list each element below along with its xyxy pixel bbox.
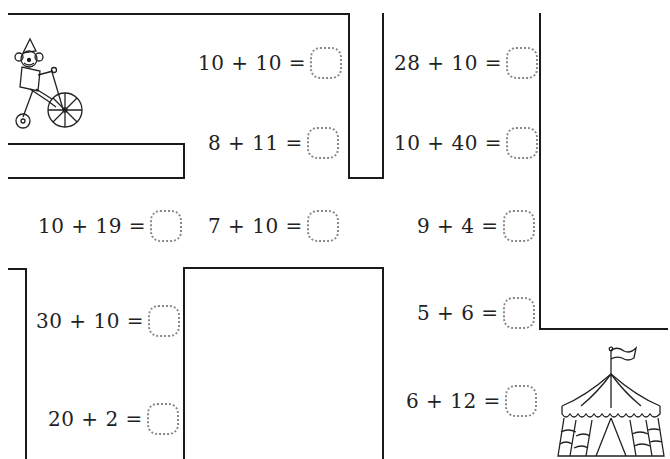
maze-wall-small-box-bottom	[8, 177, 185, 179]
maze-wall-center-box-left	[183, 267, 185, 459]
equation-3: 28 + 10 =	[394, 47, 538, 79]
equation-11: 20 + 2 =	[48, 403, 179, 435]
answer-box[interactable]	[147, 403, 179, 435]
equation-8: 30 + 10 =	[36, 305, 180, 337]
equation-expression: 9 + 4 =	[417, 214, 499, 238]
answer-box[interactable]	[150, 210, 182, 242]
answer-box[interactable]	[148, 305, 180, 337]
answer-box[interactable]	[307, 210, 339, 242]
equation-expression: 8 + 11 =	[208, 131, 303, 155]
answer-box[interactable]	[505, 385, 537, 417]
answer-box[interactable]	[506, 47, 538, 79]
maze-wall-right-lane-bottom	[539, 328, 668, 330]
maze-wall-right-lane	[539, 13, 541, 330]
equation-6: 7 + 10 =	[208, 210, 339, 242]
circus-tent-icon	[556, 344, 666, 459]
maze-worksheet: 10 + 10 = 8 + 11 = 28 + 10 = 10 + 40 = 1…	[0, 0, 670, 459]
maze-wall-notch-right	[382, 13, 384, 179]
equation-9: 5 + 6 =	[417, 297, 535, 329]
answer-box[interactable]	[503, 297, 535, 329]
equation-7: 9 + 4 =	[417, 210, 535, 242]
equation-4: 10 + 40 =	[394, 127, 538, 159]
maze-wall-small-box-right	[183, 143, 185, 179]
equation-expression: 10 + 40 =	[394, 131, 502, 155]
answer-box[interactable]	[310, 47, 342, 79]
equation-2: 8 + 11 =	[208, 127, 339, 159]
equation-expression: 6 + 12 =	[406, 389, 501, 413]
equation-expression: 5 + 6 =	[417, 301, 499, 325]
maze-wall-center-box-right	[382, 267, 384, 459]
equation-expression: 30 + 10 =	[36, 309, 144, 333]
maze-wall-top-box-right	[348, 13, 350, 179]
answer-box[interactable]	[506, 127, 538, 159]
equation-5: 10 + 19 =	[38, 210, 182, 242]
clown-on-unicycle-icon	[8, 35, 83, 135]
maze-wall-notch-bottom	[348, 177, 384, 179]
answer-box[interactable]	[307, 127, 339, 159]
equation-expression: 28 + 10 =	[394, 51, 502, 75]
answer-box[interactable]	[503, 210, 535, 242]
maze-wall-left-bracket-side	[25, 268, 27, 459]
maze-wall-small-box-top	[8, 143, 185, 145]
equation-expression: 10 + 19 =	[38, 214, 146, 238]
maze-wall-center-box-top	[183, 267, 384, 269]
equation-expression: 20 + 2 =	[48, 407, 143, 431]
maze-wall-top	[8, 13, 350, 15]
equation-expression: 7 + 10 =	[208, 214, 303, 238]
equation-1: 10 + 10 =	[198, 47, 342, 79]
equation-expression: 10 + 10 =	[198, 51, 306, 75]
equation-10: 6 + 12 =	[406, 385, 537, 417]
